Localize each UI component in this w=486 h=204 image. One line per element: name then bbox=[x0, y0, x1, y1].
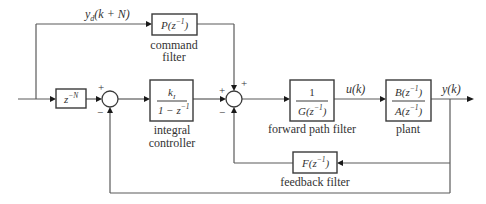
control-block-diagram: + − + + − yd(k + N) u(k) y(k) z−N P(z−1)… bbox=[0, 0, 486, 204]
plant-denominator: A(z−1) bbox=[394, 103, 422, 118]
command-filter-block: P(z−1) command filter bbox=[150, 14, 197, 64]
plant-block: B(z−1) A(z−1) plant bbox=[386, 80, 431, 136]
forward-denominator: G(z−1) bbox=[298, 103, 327, 118]
sum1-plus-sign: + bbox=[98, 81, 104, 93]
arrow-into-plant-icon bbox=[380, 96, 386, 102]
arrow-into-feedback-filter-icon bbox=[337, 160, 343, 166]
control-signal-label: u(k) bbox=[346, 82, 365, 96]
sum2-plus-left-sign: + bbox=[219, 84, 225, 96]
arrow-output-icon bbox=[467, 96, 474, 102]
sum2-plus-top-sign: + bbox=[241, 77, 247, 89]
plant-caption: plant bbox=[396, 122, 421, 136]
forward-path-filter-block: 1 G(z−1) forward path filter bbox=[268, 80, 356, 136]
delay-block: z−N bbox=[56, 89, 86, 108]
feedback-filter-caption: feedback filter bbox=[280, 175, 350, 189]
arrow-into-sum2-left-icon bbox=[220, 96, 226, 102]
reference-signal-label: yd(k + N) bbox=[84, 7, 130, 23]
arrow-into-sum2-top-icon bbox=[231, 85, 237, 91]
sum2-minus-sign: − bbox=[219, 106, 225, 118]
sum2-circle bbox=[226, 91, 242, 107]
plant-numerator: B(z−1) bbox=[395, 84, 422, 99]
arrow-into-forward-filter-icon bbox=[284, 96, 290, 102]
feedback-filter-expression: F(z−1) bbox=[301, 155, 329, 170]
feedback-filter-block: F(z−1) feedback filter bbox=[280, 152, 350, 189]
command-filter-caption-line2: filter bbox=[162, 50, 185, 64]
integral-caption-line1: integral bbox=[154, 123, 191, 137]
sum1-circle bbox=[102, 91, 118, 107]
arrow-into-delay-icon bbox=[50, 96, 56, 102]
arrow-into-sum1-bottom-icon bbox=[107, 107, 113, 113]
output-signal-label: y(k) bbox=[441, 82, 461, 96]
command-filter-expression: P(z−1) bbox=[160, 17, 188, 32]
integral-caption-line2: controller bbox=[149, 136, 196, 150]
arrow-into-sum2-bottom-icon bbox=[231, 107, 237, 113]
arrow-into-integral-icon bbox=[144, 96, 150, 102]
arrow-into-command-filter-icon bbox=[146, 21, 152, 27]
integral-controller-block: kI 1 − z−1 integral controller bbox=[149, 80, 196, 150]
forward-path-filter-caption: forward path filter bbox=[268, 122, 356, 136]
arrow-into-sum1-left-icon bbox=[96, 96, 102, 102]
sum1-minus-sign: − bbox=[97, 106, 103, 118]
forward-numerator: 1 bbox=[309, 86, 315, 98]
